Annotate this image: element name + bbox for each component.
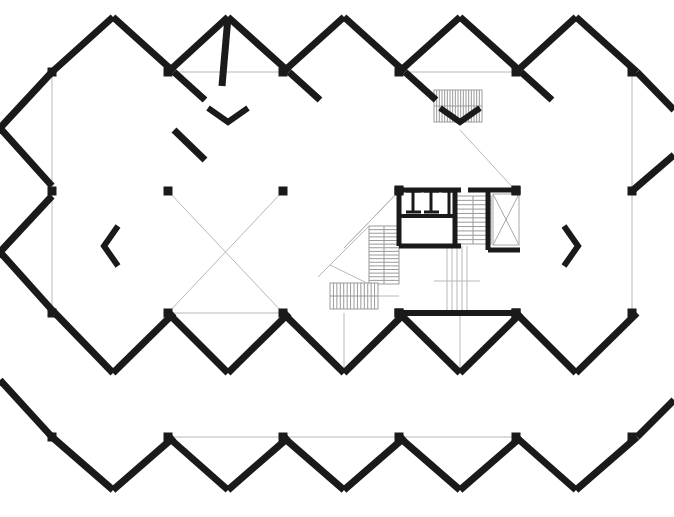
col-c2 — [164, 309, 173, 318]
col-a1 — [48, 68, 57, 77]
col-b3 — [279, 187, 288, 196]
floor-plan-drawing — [0, 0, 674, 517]
elevator-shaft-layer — [493, 194, 519, 245]
col-a4 — [395, 68, 404, 77]
col-c3 — [279, 309, 288, 318]
col-a6 — [628, 68, 637, 77]
col-a2 — [164, 68, 173, 77]
col-b1 — [48, 187, 57, 196]
core-column-2 — [395, 309, 404, 318]
stair-lower-left-b — [330, 283, 378, 309]
col-a3 — [279, 68, 288, 77]
floor-plan-canvas — [0, 0, 674, 517]
core-column-3 — [512, 309, 521, 318]
col-b6 — [628, 187, 637, 196]
col-b2 — [164, 187, 173, 196]
core-column-1 — [512, 186, 521, 195]
col-d5 — [512, 433, 521, 442]
core-column-0 — [395, 186, 404, 195]
col-c1 — [48, 309, 57, 318]
col-d2 — [164, 433, 173, 442]
col-d6 — [628, 433, 637, 442]
col-d4 — [395, 433, 404, 442]
col-d3 — [279, 433, 288, 442]
col-c6 — [628, 309, 637, 318]
stair-lower-left-a — [369, 226, 399, 284]
col-a5 — [512, 68, 521, 77]
col-d1 — [48, 433, 57, 442]
